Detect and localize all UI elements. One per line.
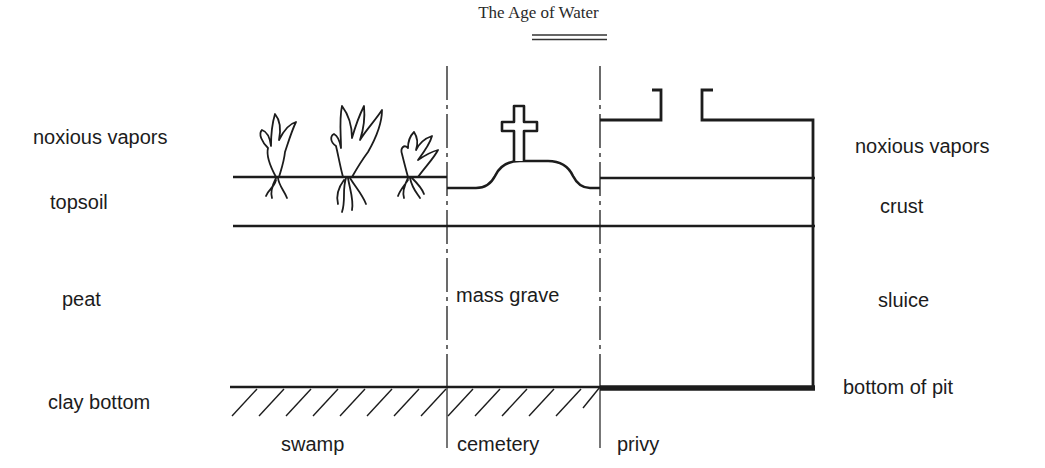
label-topsoil: topsoil <box>50 192 108 212</box>
label-bottom-of-pit: bottom of pit <box>843 377 953 397</box>
zone-label-privy: privy <box>617 434 659 454</box>
label-noxious-vapors-right: noxious vapors <box>855 136 990 156</box>
label-peat: peat <box>62 289 101 309</box>
zone-label-cemetery: cemetery <box>457 434 539 454</box>
label-mass-grave: mass grave <box>456 285 559 305</box>
label-sluice: sluice <box>878 290 929 310</box>
clay-hatching <box>232 387 600 416</box>
privy-structure-right <box>702 90 813 388</box>
zone-label-swamp: swamp <box>281 434 344 454</box>
title-underline <box>532 35 607 40</box>
label-noxious-vapors-left: noxious vapors <box>33 127 168 147</box>
grave-mound <box>447 161 600 188</box>
label-clay-bottom: clay bottom <box>48 392 150 412</box>
cross-icon <box>502 106 537 161</box>
privy-structure-left <box>600 90 661 120</box>
label-crust: crust <box>880 196 923 216</box>
swamp-plant-icon <box>260 106 438 212</box>
